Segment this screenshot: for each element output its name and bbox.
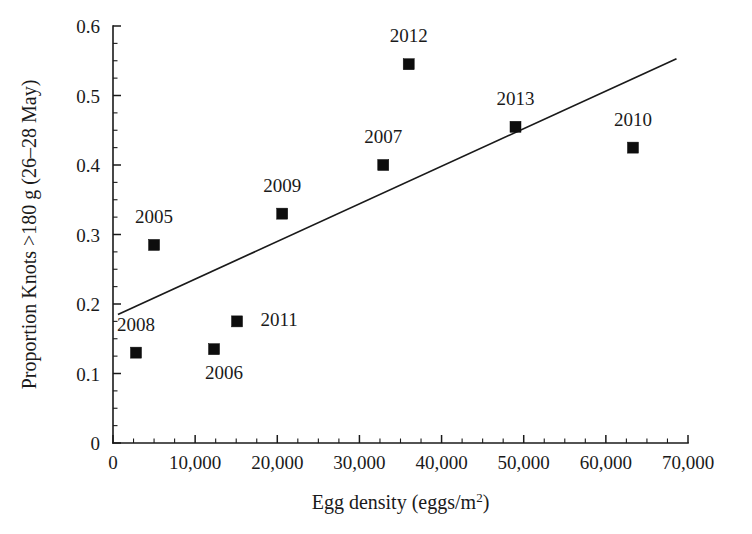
y-axis-title: Proportion Knots >180 g (26–28 May) [18,80,41,390]
data-marker-2012 [403,59,414,70]
data-marker-2013 [510,121,521,132]
x-tick-label: 70,000 [662,452,714,473]
y-tick-label: 0.3 [76,225,100,246]
trend-line [118,59,677,315]
axes [113,26,688,443]
y-tick-label: 0.6 [76,16,100,37]
data-marker-2009 [277,208,288,219]
regression-trend-line [118,59,677,315]
data-label-2006: 2006 [205,362,243,383]
y-tick-label: 0 [91,433,101,454]
data-label-2005: 2005 [135,206,173,227]
y-tick-label: 0.4 [76,155,100,176]
x-tick-label: 10,000 [169,452,221,473]
data-marker-2006 [209,344,220,355]
y-tick-label: 0.2 [76,294,100,315]
data-label-2008: 2008 [117,314,155,335]
x-axis-title: Egg density (eggs/m2) [312,490,490,515]
data-marker-2011 [232,316,243,327]
y-tick-label: 0.1 [76,364,100,385]
plot-canvas: 010,00020,00030,00040,00050,00060,00070,… [0,0,752,534]
data-marker-2005 [149,239,160,250]
y-tick-label: 0.5 [76,86,100,107]
data-label-2013: 2013 [497,88,535,109]
x-tick-label: 20,000 [251,452,303,473]
data-marker-2010 [627,142,638,153]
x-tick-label: 30,000 [333,452,385,473]
data-label-2012: 2012 [390,25,428,46]
data-label-2010: 2010 [614,109,652,130]
axis-ticks [113,26,688,443]
x-tick-label: 50,000 [498,452,550,473]
x-tick-label: 0 [108,452,118,473]
x-tick-label: 60,000 [580,452,632,473]
data-point-labels: 200520062007200820092010201120122013 [117,25,652,383]
data-label-2009: 2009 [263,175,301,196]
data-marker-2008 [131,347,142,358]
data-label-2011: 2011 [260,309,297,330]
scatter-plot-figure: 010,00020,00030,00040,00050,00060,00070,… [0,0,752,534]
data-points [131,59,639,358]
data-label-2007: 2007 [364,126,402,147]
x-tick-label: 40,000 [415,452,467,473]
data-marker-2007 [378,160,389,171]
